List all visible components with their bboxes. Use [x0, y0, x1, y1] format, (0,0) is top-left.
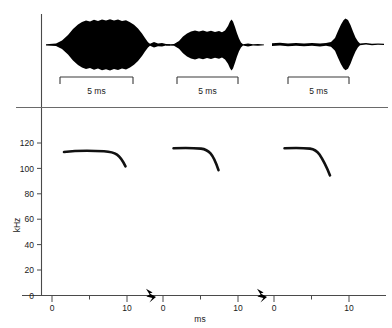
y-tick-label-40: 40 [25, 240, 35, 250]
y-tick-label-20: 20 [25, 265, 35, 275]
x-tick-label-seg3-10: 10 [344, 303, 354, 313]
freq-trace-call-3 [285, 148, 331, 175]
x-axis-ticks-segment-3 [274, 296, 349, 303]
freq-trace-call-2 [174, 148, 219, 170]
x-tick-label-seg1-0: 0 [50, 303, 55, 313]
x-tick-label-seg2-10: 10 [233, 303, 243, 313]
x-axis-ticks-segment-1 [52, 296, 127, 303]
echolocation-figure: 5 ms 5 ms 5 ms 120 100 80 60 40 20 0 kHz [0, 0, 392, 328]
y-tick-label-80: 80 [25, 189, 35, 199]
scale-bar-call-3 [288, 77, 349, 84]
waveform-call-2 [166, 19, 264, 70]
y-axis-title: kHz [12, 218, 22, 233]
x-tick-label-seg3-0: 0 [272, 303, 277, 313]
freq-trace-call-1 [64, 151, 126, 167]
scale-bar-call-2 [177, 77, 238, 84]
figure-canvas: 5 ms 5 ms 5 ms 120 100 80 60 40 20 0 kHz [0, 0, 392, 328]
x-axis-title: ms [194, 314, 205, 324]
y-tick-label-120: 120 [20, 138, 34, 148]
scale-bar-label-1: 5 ms [87, 86, 105, 96]
y-tick-label-100: 100 [20, 164, 34, 174]
x-tick-label-seg2-0: 0 [161, 303, 166, 313]
y-tick-label-60: 60 [25, 214, 35, 224]
x-axis-ticks-segment-2 [163, 296, 238, 303]
scale-bar-label-2: 5 ms [198, 86, 216, 96]
scale-bar-label-3: 5 ms [309, 86, 327, 96]
scale-bar-call-1 [60, 77, 133, 84]
waveform-call-1 [46, 19, 170, 70]
x-tick-label-seg1-10: 10 [122, 303, 132, 313]
y-tick-label-0: 0 [29, 291, 34, 301]
waveform-call-3 [272, 19, 384, 71]
